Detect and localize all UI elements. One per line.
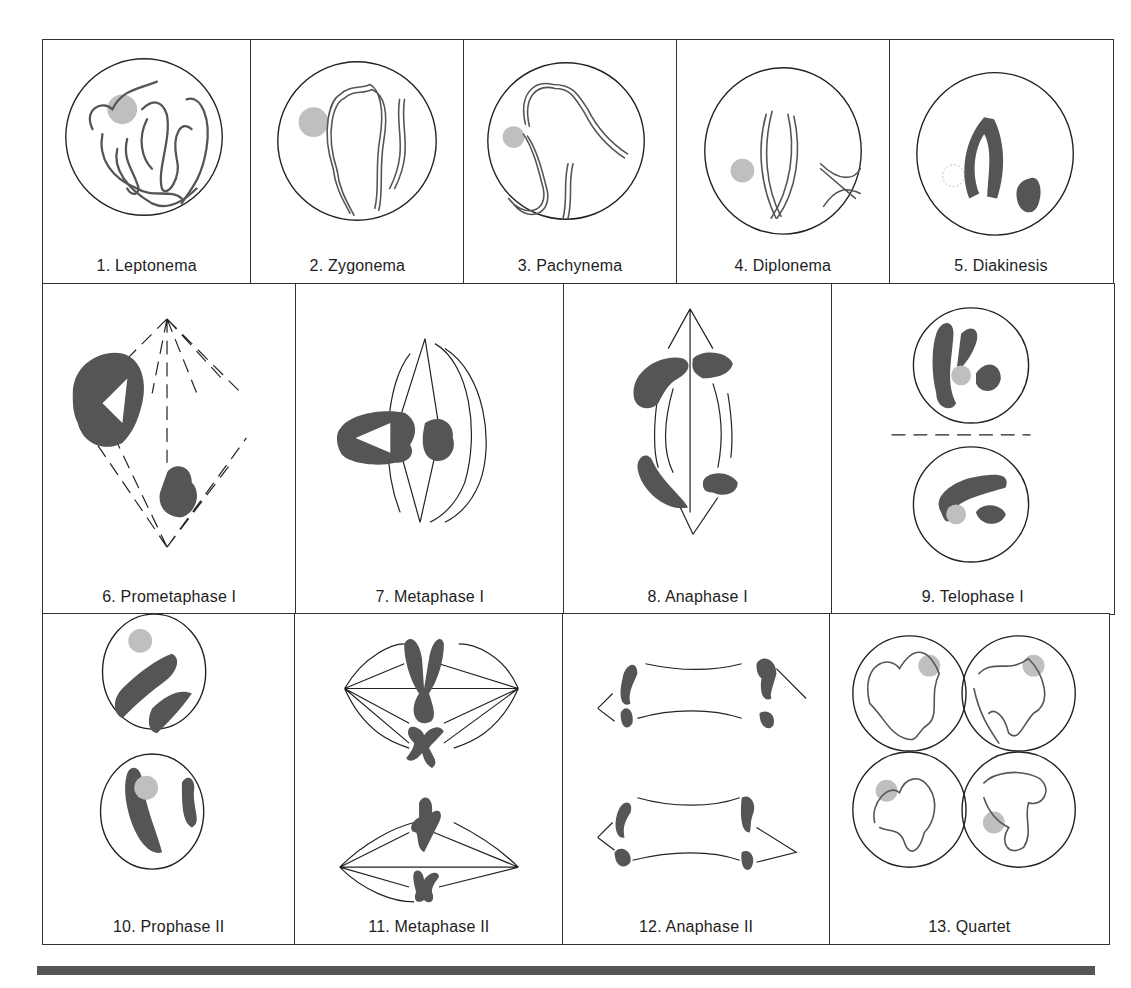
stage-zygonema: 2. Zygonema: [250, 39, 464, 284]
stage-label: 12. Anaphase II: [563, 918, 829, 936]
stage-metaphase-i: 7. Metaphase I: [295, 283, 564, 615]
stage-metaphase-ii: 11. Metaphase II: [294, 613, 563, 945]
prometaphase-i-illustration: [43, 284, 296, 574]
stage-diakinesis: 5. Diakinesis: [889, 39, 1114, 284]
stage-label: 13. Quartet: [830, 918, 1109, 936]
anaphase-ii-illustration: [563, 614, 829, 904]
prophase-ii-illustration: [43, 614, 295, 904]
leptonema-illustration: [43, 40, 251, 243]
quartet-illustration: [830, 614, 1109, 904]
stage-quartet: 13. Quartet: [829, 613, 1110, 945]
stage-label: 9. Telophase I: [832, 588, 1114, 606]
stage-prometaphase-i: 6. Prometaphase I: [42, 283, 297, 615]
telophase-i-illustration: [832, 284, 1114, 574]
stage-telophase-i: 9. Telophase I: [831, 283, 1115, 615]
bottom-rule: [37, 966, 1095, 975]
stage-label: 4. Diplonema: [677, 257, 889, 275]
stage-label: 1. Leptonema: [43, 257, 251, 275]
stage-anaphase-i: 8. Anaphase I: [563, 283, 832, 615]
diakinesis-illustration: [890, 40, 1113, 243]
stage-diplonema: 4. Diplonema: [676, 39, 890, 284]
stage-prophase-ii: 10. Prophase II: [42, 613, 296, 945]
stage-anaphase-ii: 12. Anaphase II: [562, 613, 830, 945]
stage-label: 3. Pachynema: [464, 257, 676, 275]
row-division-i: 6. Prometaphase I 7. Metaphase I 8. Anap…: [43, 284, 1115, 615]
diplonema-illustration: [677, 40, 889, 243]
stage-label: 2. Zygonema: [251, 257, 463, 275]
pachynema-illustration: [464, 40, 676, 243]
metaphase-ii-illustration: [295, 614, 562, 904]
stage-label: 11. Metaphase II: [295, 918, 562, 936]
row-division-ii: 10. Prophase II 11. Metaphase II: [43, 614, 1110, 945]
stage-label: 6. Prometaphase I: [43, 588, 296, 606]
anaphase-i-illustration: [564, 284, 831, 574]
stage-label: 8. Anaphase I: [564, 588, 831, 606]
stage-label: 5. Diakinesis: [890, 257, 1113, 275]
metaphase-i-illustration: [296, 284, 563, 574]
stage-leptonema: 1. Leptonema: [42, 39, 252, 284]
stage-pachynema: 3. Pachynema: [463, 39, 677, 284]
meiosis-stage-grid: 1. Leptonema 2. Zygonema 3. Pach: [43, 40, 1116, 945]
row-prophase-i: 1. Leptonema 2. Zygonema 3. Pach: [43, 40, 1114, 284]
stage-label: 10. Prophase II: [43, 918, 295, 936]
zygonema-illustration: [251, 40, 463, 243]
stage-label: 7. Metaphase I: [296, 588, 563, 606]
